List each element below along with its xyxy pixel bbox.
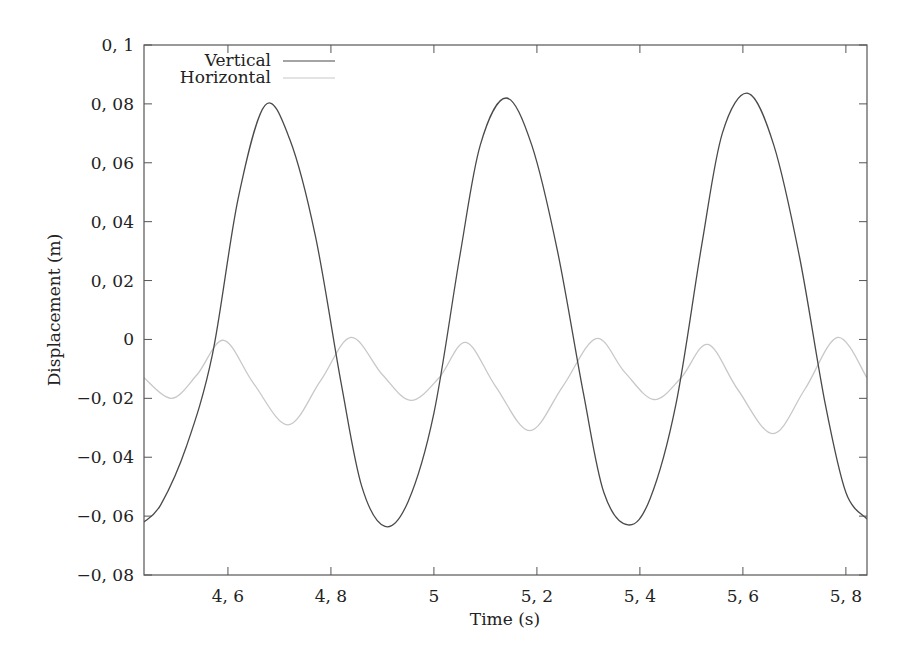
ticks-layer (144, 45, 867, 575)
y-tick-label: 0, 08 (91, 94, 134, 114)
x-tick-label: 5, 4 (624, 586, 656, 606)
series-horizontal-line (144, 337, 867, 433)
y-tick-label: −0, 02 (77, 388, 135, 408)
y-tick-label: 0 (123, 329, 134, 349)
y-tick-label: 0, 02 (91, 271, 134, 291)
x-tick-label: 4, 6 (212, 586, 244, 606)
plot-area (144, 45, 867, 575)
legend-label-horizontal: Horizontal (180, 67, 271, 87)
x-tick-label: 5 (429, 586, 440, 606)
y-tick-label: 0, 06 (91, 153, 134, 173)
y-tick-label: −0, 04 (77, 447, 135, 467)
x-tick-label: 5, 6 (727, 586, 759, 606)
series-layer (144, 93, 867, 527)
displacement-chart: 4, 64, 855, 25, 45, 65, 80, 10, 080, 060… (0, 0, 906, 664)
y-tick-label: 0, 04 (91, 212, 134, 232)
y-tick-label: −0, 06 (77, 506, 135, 526)
y-axis-title: Displacement (m) (44, 234, 64, 387)
x-tick-label: 4, 8 (315, 586, 347, 606)
x-tick-label: 5, 2 (521, 586, 553, 606)
y-tick-label: −0, 08 (77, 565, 135, 585)
y-tick-label: 0, 1 (102, 35, 134, 55)
x-axis-title: Time (s) (470, 609, 540, 629)
plot-frame (144, 45, 867, 575)
legend: Vertical Horizontal (180, 50, 335, 87)
x-tick-label: 5, 8 (830, 586, 862, 606)
series-vertical-line (144, 93, 867, 527)
tick-labels: 4, 64, 855, 25, 45, 65, 80, 10, 080, 060… (77, 35, 863, 606)
